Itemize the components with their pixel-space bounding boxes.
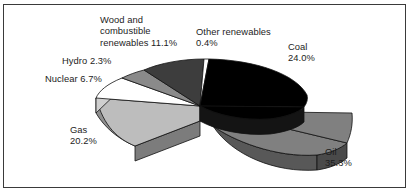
pie-label-coal: Coal 24.0%	[288, 41, 315, 64]
pie-label-oil: Oil 35.3%	[325, 146, 352, 169]
pie-label-nuclear: Nuclear 6.7%	[45, 73, 102, 84]
pie-chart-figure: Wood and combustible renewables 11.1% Ot…	[0, 0, 411, 195]
pie-label-hydro: Hydro 2.3%	[62, 55, 111, 66]
pie-slice-coal[interactable]	[200, 59, 307, 134]
pie-label-other-renewables: Other renewables 0.4%	[196, 26, 271, 49]
pie-slice-coal-top	[200, 59, 307, 107]
pie-label-wood-and-combustible-renewables: Wood and combustible renewables 11.1%	[100, 14, 177, 48]
pie-slice-gas[interactable]	[96, 98, 200, 161]
pie-label-gas: Gas 20.2%	[70, 124, 97, 147]
